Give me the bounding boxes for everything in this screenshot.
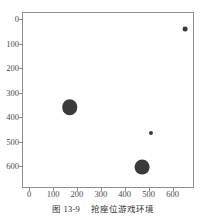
x-tick-label: 600: [166, 190, 179, 199]
y-tick: [19, 19, 22, 20]
x-tick-label: 500: [142, 190, 155, 199]
x-tick-label: 0: [27, 190, 31, 199]
y-tick: [19, 68, 22, 69]
data-point: [183, 26, 188, 31]
caption-number: 图 13-9: [52, 204, 80, 214]
y-tick: [19, 166, 22, 167]
scatter-plot-area: [22, 12, 194, 188]
figure-caption: 图 13-9抢座位游戏环境: [0, 203, 206, 215]
y-tick-label: 500: [6, 137, 19, 146]
y-tick-label: 600: [6, 162, 19, 171]
y-tick: [19, 93, 22, 94]
figure-container: 0100200300400500600 0100200300400500600 …: [0, 0, 206, 220]
caption-text: 抢座位游戏环境: [91, 204, 154, 214]
x-tick-label: 100: [47, 190, 60, 199]
y-tick: [19, 117, 22, 118]
y-axis-labels: 0100200300400500600: [0, 0, 19, 220]
y-tick: [19, 44, 22, 45]
y-tick-label: 400: [6, 113, 19, 122]
data-point: [149, 131, 153, 135]
y-tick-label: 0: [15, 15, 19, 24]
x-tick-label: 400: [118, 190, 131, 199]
x-tick-label: 300: [94, 190, 107, 199]
y-tick-label: 200: [6, 64, 19, 73]
x-tick-label: 200: [71, 190, 84, 199]
y-tick-label: 300: [6, 88, 19, 97]
y-tick: [19, 142, 22, 143]
data-point: [62, 99, 78, 115]
y-tick-label: 100: [6, 39, 19, 48]
data-point: [135, 160, 150, 175]
